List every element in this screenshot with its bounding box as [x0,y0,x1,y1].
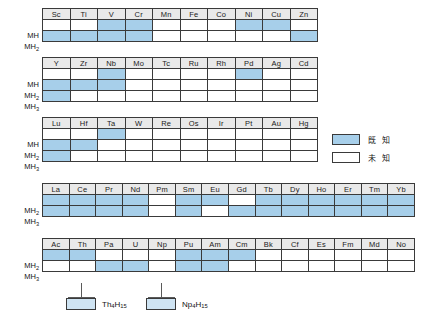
table-row [43,129,318,140]
cell-ni-mh [235,20,263,31]
cell-nb-mh [98,69,126,80]
table-header-row: LaCePrNdPmSmEuGdTbDyHoErTmYb [43,184,415,195]
cell-nb-mh2 [98,80,126,91]
cell-cu-mh2 [263,31,291,42]
cell-y-mh [43,69,71,80]
cell-zr-mh [70,69,98,80]
cell-pa-mh3 [96,261,123,272]
table-lanthanides: LaCePrNdPmSmEuGdTbDyHoErTmYb [42,183,415,217]
cell-cm-mh3 [228,261,255,272]
table-3d-block: ScTiVCrMnFeCoNiCuZn [42,8,318,42]
column-header-w: W [125,118,153,129]
cell-rh-mh3 [208,91,236,102]
row-labels-table-5d: MH MH2 MH3 [6,139,39,172]
cell-ir-mh [208,129,236,140]
cell-ce-mh2 [69,195,96,206]
table-5d: LuHfTaWReOsIrPtAuHg [42,117,318,162]
column-header-rh: Rh [208,58,236,69]
cell-ag-mh [263,69,291,80]
column-header-es: Es [308,239,335,250]
cell-hg-mh3 [290,151,318,162]
cell-pa-mh2 [96,250,123,261]
cell-cf-mh3 [282,261,309,272]
cell-gd-mh3 [228,206,255,217]
row-labels-table-lanthanides: MH2 MH3 [6,205,39,227]
cell-tc-mh3 [153,91,181,102]
cell-ho-mh2 [308,195,335,206]
table-row [43,250,415,261]
annotation-np4h15: Np4H15 [146,298,208,310]
cell-tm-mh3 [361,206,388,217]
row-labels-table-3d: MH MH2 [6,30,39,52]
cell-md-mh2 [361,250,388,261]
cell-ru-mh [180,69,208,80]
column-header-lu: Lu [43,118,71,129]
cell-pd-mh2 [235,80,263,91]
table-header-row: ScTiVCrMnFeCoNiCuZn [43,9,318,20]
cell-au-mh2 [263,140,291,151]
table-actinides-block: AcThPaUNpPuAmCmBkCfEsFmMdNo [42,238,415,272]
cell-v-mh2 [98,31,126,42]
cell-ta-mh3 [98,151,126,162]
cell-hf-mh [70,129,98,140]
cell-th-mh3 [69,261,96,272]
column-header-ta: Ta [98,118,126,129]
table-5d-block: LuHfTaWReOsIrPtAuHg [42,117,318,162]
cell-sm-mh2 [175,195,202,206]
table-row [43,31,318,42]
column-header-co: Co [208,9,236,20]
cell-lu-mh [43,129,71,140]
cell-pm-mh3 [149,206,176,217]
table-4d: YZrNbMoTcRuRhPdAgCd [42,57,318,102]
cell-yb-mh2 [388,195,415,206]
cell-cd-mh [290,69,318,80]
cell-lu-mh3 [43,151,71,162]
cell-u-mh3 [122,261,149,272]
cell-mo-mh [125,69,153,80]
cell-w-mh2 [125,140,153,151]
cell-cd-mh2 [290,80,318,91]
column-header-tb: Tb [255,184,282,195]
column-header-am: Am [202,239,229,250]
cell-ac-mh3 [43,261,70,272]
row-label-mh2: MH2 [6,150,39,161]
column-header-eu: Eu [202,184,229,195]
cell-mo-mh2 [125,80,153,91]
cell-ag-mh3 [263,91,291,102]
cell-eu-mh2 [202,195,229,206]
column-header-cd: Cd [290,58,318,69]
cell-pu-mh2 [175,250,202,261]
legend-label-known: 既 知 [368,134,392,145]
column-header-tc: Tc [153,58,181,69]
cell-os-mh [180,129,208,140]
cell-md-mh3 [361,261,388,272]
column-header-er: Er [335,184,362,195]
table-row [43,195,415,206]
row-label-mh: MH [6,30,39,41]
cell-pt-mh3 [235,151,263,162]
cell-cr-mh [125,20,153,31]
column-header-bk: Bk [255,239,282,250]
legend: 既 知 未 知 [332,133,392,169]
cell-au-mh [263,129,291,140]
column-header-mn: Mn [153,9,181,20]
cell-lu-mh2 [43,140,71,151]
row-label-mh: MH [6,139,39,150]
cell-gd-mh2 [228,195,255,206]
column-header-fe: Fe [180,9,208,20]
cell-pu-mh3 [175,261,202,272]
column-header-cf: Cf [282,239,309,250]
column-header-yb: Yb [388,184,415,195]
column-header-dy: Dy [282,184,309,195]
column-header-ag: Ag [263,58,291,69]
cell-ti-mh [70,20,98,31]
cell-hf-mh2 [70,140,98,151]
cell-pd-mh [235,69,263,80]
column-header-pm: Pm [149,184,176,195]
column-header-au: Au [263,118,291,129]
column-header-ir: Ir [208,118,236,129]
column-header-zr: Zr [70,58,98,69]
table-row [43,80,318,91]
cell-bk-mh3 [255,261,282,272]
cell-dy-mh3 [282,206,309,217]
